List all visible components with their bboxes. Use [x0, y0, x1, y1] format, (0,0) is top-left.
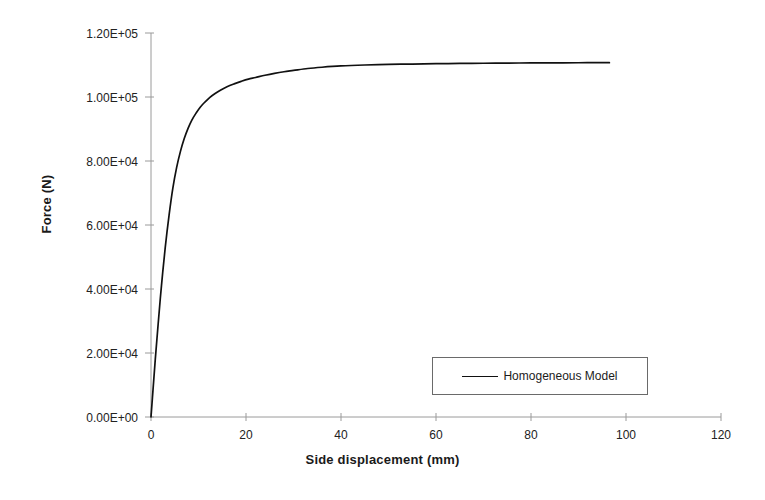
plot-area: [0, 0, 765, 500]
y-ticks-group: [145, 33, 154, 417]
legend-label: Homogeneous Model: [503, 369, 617, 383]
chart-canvas: Force (N) Side displacement (mm) 1.20E+0…: [0, 0, 765, 500]
legend-entry: Homogeneous Model: [433, 358, 647, 394]
legend-line-swatch: [462, 376, 498, 377]
legend-box: Homogeneous Model: [432, 357, 648, 395]
